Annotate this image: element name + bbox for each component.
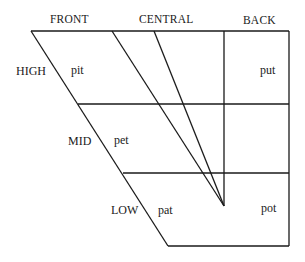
central-left-diagonal — [112, 31, 224, 206]
word-pit: pit — [71, 63, 84, 78]
front-diagonal-edge — [31, 31, 168, 246]
row-label-low: LOW — [111, 203, 138, 218]
header-central: CENTRAL — [139, 13, 193, 25]
word-put: put — [260, 63, 275, 78]
vowel-chart-lines — [0, 0, 305, 262]
word-pat: pat — [158, 203, 173, 218]
row-label-high: HIGH — [16, 64, 46, 79]
word-pot: pot — [261, 201, 276, 216]
row-label-mid: MID — [68, 134, 91, 149]
header-front: FRONT — [50, 13, 89, 25]
central-right-diagonal — [154, 31, 224, 206]
word-pet: pet — [114, 133, 129, 148]
header-back: BACK — [243, 14, 276, 26]
